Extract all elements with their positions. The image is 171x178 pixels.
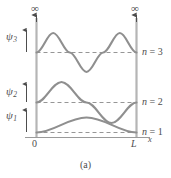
psi2-subscript: 2 xyxy=(13,90,17,99)
wavefunction-label-psi1: ψ1 xyxy=(6,110,17,123)
energy-level-label-n1: n = 1 xyxy=(142,127,163,137)
wavefunction-label-psi2: ψ2 xyxy=(6,86,17,99)
figure-caption: (a) xyxy=(0,159,171,170)
x-axis-origin-label: 0 xyxy=(32,139,37,149)
psi3-symbol: ψ xyxy=(6,30,13,42)
psi2-symbol: ψ xyxy=(6,85,13,97)
wavefunction-label-psi3: ψ3 xyxy=(6,31,17,44)
x-axis-width-label: L xyxy=(131,139,137,149)
infinite-square-well-figure: ∞ ∞ ψ3 ψ2 ψ1 n = 3 n = 2 n = 1 0 L x (a) xyxy=(0,0,171,178)
n3-value: 3 xyxy=(158,46,163,57)
wavefunction-curve-n1 xyxy=(37,118,137,133)
infinity-label-right: ∞ xyxy=(131,3,139,14)
n2-equals: = xyxy=(147,96,158,107)
psi1-symbol: ψ xyxy=(6,109,13,121)
n1-value: 1 xyxy=(158,126,163,137)
figure-graphics xyxy=(0,0,171,178)
energy-level-label-n2: n = 2 xyxy=(142,97,163,107)
psi1-subscript: 1 xyxy=(13,114,17,123)
n2-value: 2 xyxy=(158,96,163,107)
psi3-subscript: 3 xyxy=(13,35,17,44)
infinity-label-left: ∞ xyxy=(31,3,39,14)
x-axis-label: x xyxy=(148,135,152,144)
energy-level-label-n3: n = 3 xyxy=(142,47,163,57)
n3-equals: = xyxy=(147,46,158,57)
